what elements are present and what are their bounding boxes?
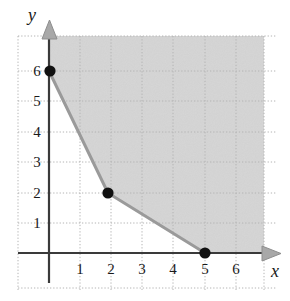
graph-figure: y x 1 2 3 4 5 6 1 2 3 4 5 6: [0, 0, 290, 301]
y-tick-4: 4: [29, 125, 45, 140]
x-axis-label: x: [271, 262, 279, 280]
x-tick-1: 1: [72, 262, 88, 277]
x-axis-arrow-icon: [262, 246, 281, 261]
point-0-6: [44, 65, 55, 76]
shaded-region: [49, 36, 264, 253]
x-tick-4: 4: [165, 262, 181, 277]
x-tick-5: 5: [197, 262, 213, 277]
y-tick-5: 5: [29, 94, 45, 109]
x-tick-6: 6: [228, 262, 244, 277]
y-tick-2: 2: [29, 186, 45, 201]
y-tick-6: 6: [29, 64, 45, 79]
point-5-0: [199, 247, 210, 258]
x-tick-3: 3: [134, 262, 150, 277]
coordinate-plane: [0, 0, 290, 301]
y-axis-arrow-icon: [42, 20, 57, 39]
point-2-2: [102, 187, 113, 198]
x-tick-2: 2: [103, 262, 119, 277]
y-tick-3: 3: [29, 155, 45, 170]
y-tick-1: 1: [29, 216, 45, 231]
y-axis-label: y: [28, 6, 36, 24]
